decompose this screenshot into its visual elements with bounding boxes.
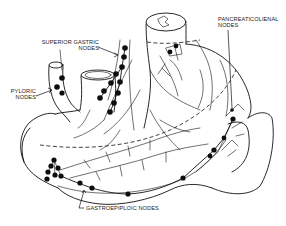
pyloric-nodes-label: PYLORIC NODES <box>6 88 36 101</box>
pancreaticolienal-nodes-label: PANCREATICOLIENAL NODES <box>218 16 279 29</box>
pyloric-label-line2: NODES <box>6 94 36 100</box>
superior-gastric-nodes <box>97 44 182 115</box>
superior-gastric-label-line2: NODES <box>41 45 99 51</box>
vessel-branches <box>58 40 244 193</box>
pancreaticolienal-label-line2: NODES <box>218 22 279 28</box>
stomach-lymph-node-diagram: SUPERIOR GASTRIC NODES PANCREATICOLIENAL… <box>0 0 286 226</box>
gastroepiploic-nodes <box>44 157 185 196</box>
pyloric-nodes <box>54 75 65 95</box>
label-pointers <box>36 30 232 208</box>
gastroepiploic-label-line1: GASTROEPIPLOIC NODES <box>86 205 159 211</box>
gastroepiploic-nodes-label: GASTROEPIPLOIC NODES <box>86 205 159 211</box>
stomach-illustration <box>0 0 286 226</box>
esophagus <box>144 13 200 128</box>
superior-gastric-nodes-label: SUPERIOR GASTRIC NODES <box>41 39 99 52</box>
